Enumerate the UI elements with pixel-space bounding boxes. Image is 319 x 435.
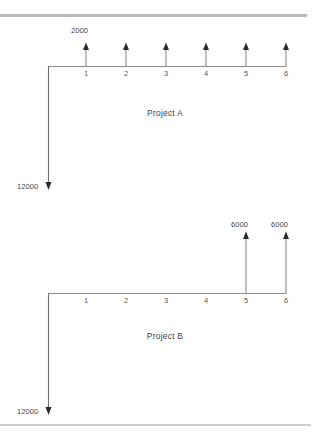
project-b-tick-label-6: 6 [279,296,293,305]
project-a-tick-label-4: 4 [199,69,213,78]
project-b-tick-label-5: 5 [239,296,253,305]
project-a-tick-label-1: 1 [79,69,93,78]
project-b-tick-label-3: 3 [159,296,173,305]
project-a-tick-label-3: 3 [159,69,173,78]
project-b-outflow-label: 12000 [17,407,38,416]
project-a-title: Project A [105,108,225,118]
project-a-tick-label-5: 5 [239,69,253,78]
project-b-tick-label-1: 1 [79,296,93,305]
project-b-inflow-label-period-6: 6000 [271,220,288,229]
project-a-tick-label-2: 2 [119,69,133,78]
project-b-tick-label-4: 4 [199,296,213,305]
project-a-inflow-label-period-1: 2000 [71,26,88,35]
project-b-group [46,232,290,416]
project-b-tick-label-2: 2 [119,296,133,305]
cash-flow-vector-graphics [0,0,319,435]
project-b-title: Project B [105,331,225,341]
project-b-inflow-label-period-5: 6000 [231,220,248,229]
project-a-tick-label-6: 6 [279,69,293,78]
project-a-outflow-label: 12000 [17,182,38,191]
cash-flow-diagram-page: 2000 1 2 3 4 5 6 Project A 12000 6000 60… [0,0,319,435]
